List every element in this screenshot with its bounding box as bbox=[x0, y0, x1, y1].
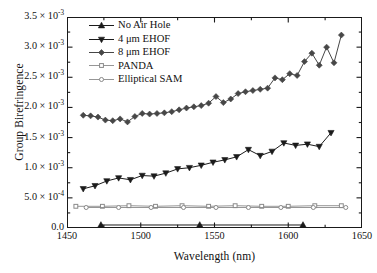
legend-marker-diamond-icon bbox=[88, 46, 115, 59]
legend-item: 8 μm EHOF bbox=[88, 46, 210, 59]
legend-label: 8 μm EHOF bbox=[115, 47, 170, 58]
legend-item: Elliptical SAM bbox=[88, 73, 210, 86]
legend-label: 4 μm EHOF bbox=[115, 34, 170, 45]
legend-label: PANDA bbox=[115, 61, 154, 72]
x-tick-label: 1600 bbox=[265, 231, 311, 241]
y-tick-label: 5.0 × 10-4 bbox=[24, 192, 64, 202]
chart-legend: No Air Hole4 μm EHOF8 μm EHOFPANDAEllipt… bbox=[88, 19, 210, 86]
legend-label: No Air Hole bbox=[115, 20, 170, 31]
legend-item: 4 μm EHOF bbox=[88, 32, 210, 45]
legend-marker-circle-icon bbox=[88, 73, 115, 86]
x-tick-label: 1450 bbox=[44, 231, 90, 241]
legend-marker-triangle-down-icon bbox=[88, 33, 115, 46]
legend-marker-square-icon bbox=[88, 59, 115, 72]
y-tick-label: 1.0 × 10-3 bbox=[24, 162, 64, 172]
y-tick-label: 3.5 × 10-3 bbox=[24, 11, 64, 21]
figure-container: Group Birefringence Wavelength (nm) 0.05… bbox=[0, 0, 377, 273]
x-tick-label: 1650 bbox=[339, 231, 377, 241]
legend-item: PANDA bbox=[88, 59, 210, 72]
legend-marker-triangle-up-icon bbox=[88, 19, 115, 32]
x-axis-title: Wavelength (nm) bbox=[67, 250, 362, 262]
y-tick-label: 1.5 × 10-3 bbox=[24, 132, 64, 142]
legend-item: No Air Hole bbox=[88, 19, 210, 32]
series-4-m-ehof bbox=[80, 130, 334, 192]
legend-label: Elliptical SAM bbox=[115, 74, 182, 85]
y-tick-label: 2.5 × 10-3 bbox=[24, 71, 64, 81]
x-tick-label: 1500 bbox=[118, 231, 164, 241]
series-no-air-hole bbox=[98, 222, 306, 228]
x-tick-label: 1550 bbox=[192, 231, 238, 241]
y-tick-label: 3.0 × 10-3 bbox=[24, 41, 64, 51]
y-tick-label: 2.0 × 10-3 bbox=[24, 101, 64, 111]
